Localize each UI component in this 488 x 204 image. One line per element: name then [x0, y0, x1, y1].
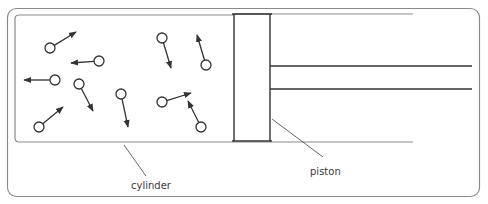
- piston: [232, 14, 272, 141]
- molecule-circle-icon: [157, 33, 167, 43]
- cylinder-label: cylinder: [131, 180, 172, 191]
- velocity-arrow-icon: [197, 35, 205, 60]
- outer-frame: [8, 9, 480, 197]
- piston-label: piston: [310, 166, 341, 177]
- gas-molecule: [197, 35, 211, 70]
- gas-molecule: [116, 89, 128, 127]
- molecule-circle-icon: [74, 79, 84, 89]
- velocity-arrow-icon: [163, 43, 171, 68]
- velocity-arrow-icon: [71, 61, 94, 63]
- molecule-circle-icon: [94, 56, 104, 66]
- piston-leader-line: [272, 119, 323, 157]
- velocity-arrow-icon: [43, 107, 63, 124]
- velocity-arrow-icon: [188, 101, 199, 123]
- gas-molecule: [157, 33, 171, 68]
- gas-molecule: [157, 93, 191, 107]
- gas-molecule: [74, 79, 93, 111]
- molecule-circle-icon: [201, 60, 211, 70]
- gas-molecule: [24, 75, 60, 85]
- molecule-circle-icon: [196, 122, 206, 132]
- molecule-circle-icon: [157, 97, 167, 107]
- molecule-circle-icon: [34, 122, 44, 132]
- molecule-circle-icon: [116, 89, 126, 99]
- gas-molecule: [71, 56, 104, 66]
- molecule-circle-icon: [45, 43, 55, 53]
- molecule-circle-icon: [50, 75, 60, 85]
- piston-cylinder-diagram: cylinder piston: [0, 0, 488, 204]
- gas-molecule: [188, 101, 206, 132]
- velocity-arrow-icon: [167, 93, 191, 101]
- gas-molecule: [34, 107, 63, 132]
- velocity-arrow-icon: [122, 99, 128, 127]
- velocity-arrow-icon: [81, 88, 93, 111]
- velocity-arrow-icon: [54, 32, 76, 45]
- gas-molecule: [45, 32, 76, 53]
- gas-molecules: [24, 32, 211, 132]
- cylinder-leader-line: [124, 145, 146, 176]
